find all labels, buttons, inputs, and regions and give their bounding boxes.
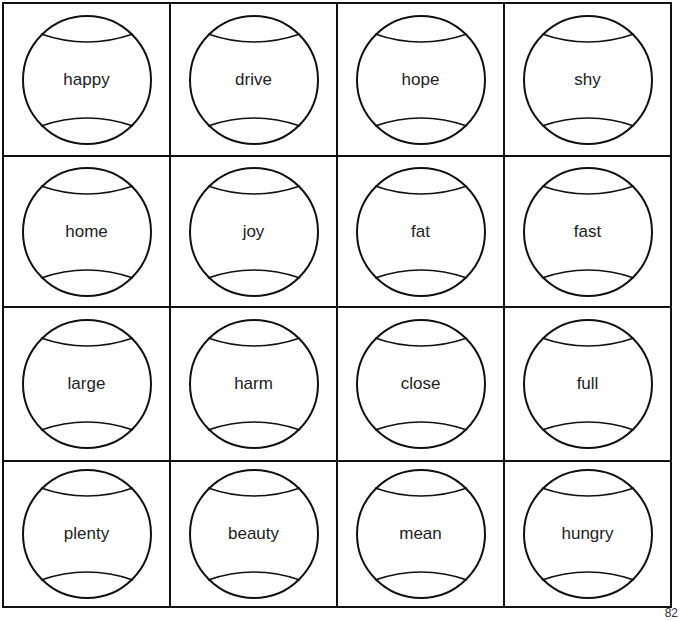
page-number: 82 [665,606,678,620]
grid-cell: shy [505,4,670,157]
word-ball: harm [188,316,320,452]
word-label: happy [21,70,153,90]
word-ball: drive [188,12,320,148]
grid-cell: happy [4,4,171,157]
grid-cell: large [4,308,171,462]
word-ball: joy [188,164,320,300]
word-label: plenty [21,524,153,544]
word-ball: hungry [522,466,654,602]
word-ball: happy [21,12,153,148]
grid-cell: drive [171,4,338,157]
word-ball: plenty [21,466,153,602]
word-label: fast [522,222,654,242]
word-label: shy [522,70,654,90]
word-ball: full [522,316,654,452]
grid-cell: beauty [171,462,338,606]
word-ball: close [355,316,487,452]
word-label: close [355,374,487,394]
grid-cell: hope [338,4,505,157]
word-ball: mean [355,466,487,602]
grid-cell: home [4,157,171,308]
word-ball: large [21,316,153,452]
word-ball: beauty [188,466,320,602]
grid-cell: hungry [505,462,670,606]
word-label: hungry [522,524,654,544]
word-ball: fat [355,164,487,300]
word-ball: fast [522,164,654,300]
grid-cell: joy [171,157,338,308]
grid-cell: mean [338,462,505,606]
grid-cell: plenty [4,462,171,606]
word-label: harm [188,374,320,394]
word-label: beauty [188,524,320,544]
grid-cell: fat [338,157,505,308]
word-label: full [522,374,654,394]
word-label: drive [188,70,320,90]
grid-cell: full [505,308,670,462]
word-label: mean [355,524,487,544]
word-ball: shy [522,12,654,148]
word-ball: home [21,164,153,300]
word-label: home [21,222,153,242]
word-label: large [21,374,153,394]
word-label: hope [355,70,487,90]
word-label: joy [188,222,320,242]
word-ball: hope [355,12,487,148]
grid-cell: fast [505,157,670,308]
word-label: fat [355,222,487,242]
grid-cell: close [338,308,505,462]
grid-cell: harm [171,308,338,462]
word-ball-grid: happydrivehopeshyhomejoyfatfastlargeharm… [2,2,672,608]
